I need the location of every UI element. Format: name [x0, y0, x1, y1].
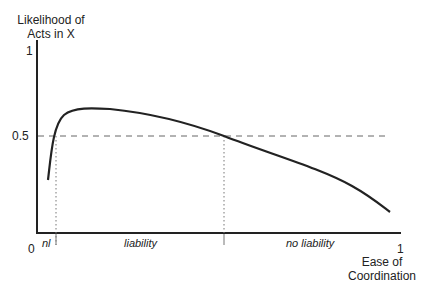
region-liability-label: liability: [124, 236, 157, 250]
region-no-liability-label: no liability: [286, 236, 334, 250]
x-title-line2: Coordination: [342, 269, 422, 283]
y-tick-half: 0.5: [12, 129, 29, 143]
x-title-line1: Ease of: [342, 255, 422, 269]
y-axis-title: Likelihood of Acts in X: [6, 13, 96, 41]
x-tick-0: 0: [28, 242, 35, 256]
chart-canvas: [0, 0, 422, 290]
region-nl-label: nl: [42, 236, 51, 250]
likelihood-curve: [48, 108, 390, 212]
x-axis-title: Ease of Coordination: [342, 255, 422, 283]
y-title-line1: Likelihood of: [6, 13, 96, 27]
y-tick-1: 1: [26, 44, 33, 58]
x-tick-1: 1: [397, 242, 404, 256]
y-title-line2: Acts in X: [6, 27, 96, 41]
